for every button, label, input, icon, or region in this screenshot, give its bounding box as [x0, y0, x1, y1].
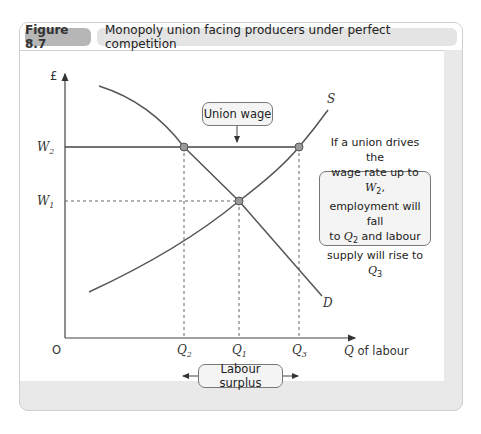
explanation-note: If a union drives the wage rate up to W2… [319, 171, 431, 246]
x-axis-label: Q of labour [344, 344, 409, 358]
point-q2-w2 [180, 143, 188, 151]
w2-label: W2 [37, 140, 54, 156]
q3-label: Q3 [292, 343, 307, 359]
supply-curve [89, 110, 328, 292]
supply-label: S [327, 92, 335, 106]
demand-label: D [323, 296, 333, 310]
union-wage-callout: Union wage [202, 102, 273, 126]
y-axis-label: £ [50, 69, 57, 83]
origin-label: O [52, 343, 61, 357]
w1-label: W1 [37, 194, 54, 210]
labour-surplus-callout: Labour surplus [198, 364, 283, 388]
point-q1-w1 [235, 197, 243, 205]
q2-label: Q2 [177, 343, 192, 359]
q1-label: Q1 [232, 343, 247, 359]
point-q3-w2 [295, 143, 303, 151]
